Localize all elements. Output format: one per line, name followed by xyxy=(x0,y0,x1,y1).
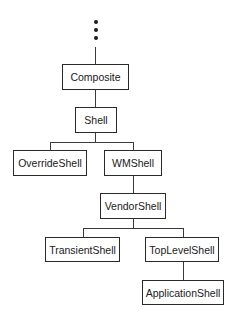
connector-to-transientshell xyxy=(83,228,84,237)
ellipsis-dot xyxy=(94,36,98,40)
connector-to-wmshell xyxy=(133,142,134,150)
node-wm-shell: WMShell xyxy=(104,150,162,176)
node-transient-shell: TransientShell xyxy=(45,237,120,262)
connector-shell-branch xyxy=(50,142,134,143)
ellipsis-dot xyxy=(94,28,98,32)
connector-vendorshell-stem xyxy=(133,219,134,228)
ellipsis-dot xyxy=(94,20,98,24)
connector-to-composite xyxy=(95,47,96,64)
connector-toplevelshell-applicationshell xyxy=(183,262,184,280)
connector-wmshell-vendorshell xyxy=(133,176,134,193)
connector-to-toplevelshell xyxy=(183,228,184,237)
connector-vendorshell-branch xyxy=(83,228,184,229)
connector-to-overrideshell xyxy=(50,142,51,150)
node-shell: Shell xyxy=(75,107,117,133)
node-override-shell: OverrideShell xyxy=(13,150,87,176)
node-vendor-shell: VendorShell xyxy=(100,193,166,219)
node-top-level-shell: TopLevelShell xyxy=(145,237,219,262)
connector-composite-shell xyxy=(95,90,96,107)
node-application-shell: ApplicationShell xyxy=(142,280,224,305)
node-composite: Composite xyxy=(62,64,129,90)
connector-shell-stem xyxy=(95,133,96,142)
